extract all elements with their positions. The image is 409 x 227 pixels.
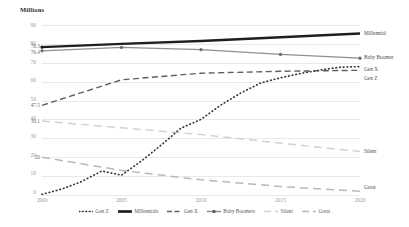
x-tick-2010: 2010 xyxy=(184,197,218,203)
end-label-millennials: Millennial xyxy=(364,30,386,36)
series-line-millennials xyxy=(42,34,360,48)
y-tick-8: 10 xyxy=(18,170,36,176)
legend-label-gen-z: Gen Z xyxy=(95,208,108,214)
y-tick-0: 90 xyxy=(18,22,36,28)
legend-item-silent[interactable]: Silent xyxy=(264,208,293,214)
legend-item-great[interactable]: Great xyxy=(302,208,330,214)
y-tick-2: 70 xyxy=(18,59,36,65)
data-label-babyboomers-2000: 76.4 xyxy=(20,49,40,55)
series-line-great xyxy=(42,157,360,191)
legend-swatch-dotted-icon xyxy=(79,209,93,214)
series-line-silent-actual xyxy=(42,121,360,152)
end-label-genx: Gen X xyxy=(364,66,378,72)
series-line-genz xyxy=(42,67,360,195)
legend-item-gen-z[interactable]: Gen Z xyxy=(79,208,109,214)
series-lines xyxy=(42,25,360,195)
legend-item-baby-boomers[interactable]: Baby Boomers xyxy=(207,208,255,214)
legend-label-gen-x: Gen X xyxy=(184,208,198,214)
data-label-genx-2000: 47.5 xyxy=(20,102,40,108)
legend-swatch-long-dash-light-icon xyxy=(264,209,278,214)
legend-label-millennials: Millennials xyxy=(134,208,158,214)
data-label-silent-2000: 39.1 xyxy=(20,118,40,124)
end-label-great: Great xyxy=(364,184,376,190)
x-tick-2020: 2020 xyxy=(343,197,377,203)
legend-label-great: Great xyxy=(318,208,330,214)
x-tick-2000: 2000 xyxy=(25,197,59,203)
end-label-genz: Gen Z xyxy=(364,75,377,81)
legend-item-millennials[interactable]: Millennials xyxy=(118,208,159,214)
legend-label-baby-boomers: Baby Boomers xyxy=(223,208,255,214)
x-tick-2005: 2005 xyxy=(105,197,139,203)
end-label-babyboomers: Baby Boomer xyxy=(364,54,394,60)
legend-swatch-dashed-icon xyxy=(167,209,181,214)
data-label-great-2000: 20 xyxy=(20,154,40,160)
legend-item-gen-x[interactable]: Gen X xyxy=(167,208,197,214)
marker-babyboomers-2005 xyxy=(120,46,123,49)
marker-millennials-2000 xyxy=(40,45,43,48)
y-tick-9: 0 xyxy=(18,189,36,195)
marker-babyboomers-2015 xyxy=(279,53,282,56)
legend-swatch-solid-thick-icon xyxy=(118,209,132,214)
series-line-genx xyxy=(42,70,360,105)
chart-legend: Gen Z Millennials Gen X Baby Boomers Sil xyxy=(0,208,409,214)
legend-swatch-long-dash-icon xyxy=(302,209,316,214)
y-tick-3: 60 xyxy=(18,77,36,83)
marker-babyboomers-2000 xyxy=(40,49,43,52)
y-axis-unit-title: Millions xyxy=(20,6,44,13)
gridline-0 xyxy=(42,195,360,196)
legend-swatch-marker-line-icon xyxy=(207,209,221,214)
generation-population-line-chart: Millions 90 80 70 60 50 40 30 20 10 0 xyxy=(0,0,409,227)
legend-label-silent: Silent xyxy=(281,208,293,214)
plot-area: 78.3 76.4 47.5 39.1 20 Millennial Baby B… xyxy=(42,25,360,195)
marker-babyboomers-2010 xyxy=(199,48,202,51)
end-label-silent: Silent xyxy=(364,148,376,154)
y-tick-6: 30 xyxy=(18,133,36,139)
marker-babyboomers-2020 xyxy=(358,57,361,60)
x-tick-2015: 2015 xyxy=(264,197,298,203)
